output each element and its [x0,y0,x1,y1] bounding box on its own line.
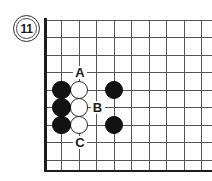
black-stone-a1 [52,81,71,100]
black-stone-a2 [52,98,71,117]
point-label-c: C [73,136,87,149]
move-number-badge: 11 [13,15,40,42]
point-label-a: A [73,66,87,79]
badge-inner-ring: 11 [16,18,37,39]
move-number-label: 11 [21,23,33,35]
point-label-b: B [91,101,105,114]
board-edge-bottom [44,170,212,173]
board-edge-left [44,18,47,172]
black-stone-a3 [52,116,71,135]
go-diagram-figure: 11 ABC [0,0,212,181]
white-stone-b2 [70,98,89,117]
